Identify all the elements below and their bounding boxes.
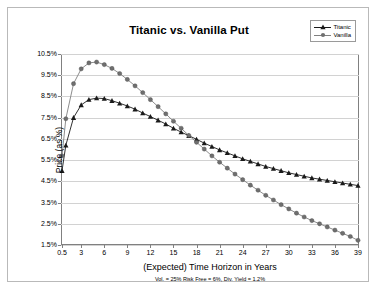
data-point-titanic <box>71 115 76 120</box>
data-point-titanic <box>217 147 222 152</box>
data-point-vanilla <box>164 112 168 116</box>
x-tick-mark <box>243 245 244 248</box>
x-tick-mark <box>312 245 313 248</box>
x-tick-mark <box>62 245 63 248</box>
data-point-vanilla <box>264 193 268 197</box>
y-tick-label: 8.5% <box>17 92 57 99</box>
x-tick-mark <box>81 245 82 248</box>
data-point-vanilla <box>141 91 145 95</box>
plot-region: 1.5%2.5%3.5%4.5%5.5%6.5%7.5%8.5%9.5%10.5… <box>61 54 359 245</box>
legend-label-vanilla: Vanilla <box>333 31 351 39</box>
series-line-vanilla <box>62 62 358 240</box>
data-point-vanilla <box>79 67 83 71</box>
x-tick-mark <box>358 245 359 248</box>
y-tick-label: 9.5% <box>17 71 57 78</box>
x-tick-mark <box>173 245 174 248</box>
x-tick-label: 36 <box>323 249 347 256</box>
data-point-vanilla <box>210 154 214 158</box>
y-tick-label: 7.5% <box>17 114 57 121</box>
data-point-vanilla <box>64 117 68 121</box>
y-tick-label: 5.5% <box>17 156 57 163</box>
y-tick-label: 6.5% <box>17 135 57 142</box>
data-point-titanic <box>202 141 207 146</box>
legend-item-titanic: Titanic <box>314 23 351 31</box>
x-tick-label: 21 <box>208 249 232 256</box>
y-tick-label: 4.5% <box>17 177 57 184</box>
data-point-vanilla <box>348 234 352 238</box>
y-tick-mark <box>58 245 61 246</box>
x-tick-label: 33 <box>300 249 324 256</box>
data-point-vanilla <box>118 71 122 75</box>
x-tick-label: 9 <box>115 249 139 256</box>
y-tick-label: 1.5% <box>17 241 57 248</box>
data-point-titanic <box>171 126 176 131</box>
x-tick-label: 12 <box>138 249 162 256</box>
data-point-vanilla <box>171 119 175 123</box>
legend-item-vanilla: Vanilla <box>314 31 351 39</box>
data-point-vanilla <box>179 126 183 130</box>
x-tick-label: 18 <box>185 249 209 256</box>
data-point-vanilla <box>310 218 314 222</box>
data-point-vanilla <box>294 211 298 215</box>
data-point-vanilla <box>218 160 222 164</box>
x-tick-mark <box>104 245 105 248</box>
data-series-layer <box>61 54 359 245</box>
y-axis-label: Price (as %) <box>54 127 64 173</box>
series-line-titanic <box>62 98 358 185</box>
data-point-vanilla <box>248 183 252 187</box>
data-point-vanilla <box>148 98 152 102</box>
data-point-vanilla <box>110 66 114 70</box>
x-tick-label: 3 <box>69 249 93 256</box>
x-tick-label: 39 <box>346 249 370 256</box>
data-point-titanic <box>232 153 237 158</box>
data-point-vanilla <box>125 77 129 81</box>
data-point-vanilla <box>287 207 291 211</box>
x-tick-label: 24 <box>231 249 255 256</box>
x-tick-mark <box>197 245 198 248</box>
x-tick-mark <box>220 245 221 248</box>
x-tick-label: 27 <box>254 249 278 256</box>
data-point-vanilla <box>202 147 206 151</box>
data-point-vanilla <box>87 61 91 65</box>
data-point-titanic <box>132 107 137 112</box>
data-point-vanilla <box>302 215 306 219</box>
data-point-vanilla <box>271 198 275 202</box>
y-tick-label: 10.5% <box>17 50 57 57</box>
data-point-vanilla <box>256 188 260 192</box>
data-point-vanilla <box>133 84 137 88</box>
data-point-titanic <box>148 114 153 119</box>
data-point-titanic <box>163 121 168 126</box>
data-point-vanilla <box>341 231 345 235</box>
data-point-vanilla <box>194 140 198 144</box>
x-tick-label: 6 <box>92 249 116 256</box>
data-point-vanilla <box>233 172 237 176</box>
data-point-vanilla <box>71 82 75 86</box>
x-axis-label: (Expected) Time Horizon in Years <box>61 262 359 272</box>
legend-marker-triangle-icon <box>314 23 331 31</box>
data-point-vanilla <box>241 178 245 182</box>
data-point-titanic <box>209 144 214 149</box>
x-tick-label: 15 <box>161 249 185 256</box>
x-tick-mark <box>150 245 151 248</box>
x-tick-mark <box>127 245 128 248</box>
data-point-vanilla <box>225 166 229 170</box>
data-point-titanic <box>63 143 68 148</box>
data-point-vanilla <box>356 238 360 242</box>
data-point-titanic <box>240 156 245 161</box>
x-tick-mark <box>266 245 267 248</box>
gridline <box>61 245 359 246</box>
data-point-vanilla <box>317 222 321 226</box>
data-point-vanilla <box>156 105 160 109</box>
data-point-titanic <box>225 150 230 155</box>
data-point-vanilla <box>325 225 329 229</box>
legend-marker-circle-icon <box>314 31 331 39</box>
data-point-vanilla <box>187 133 191 137</box>
x-tick-mark <box>289 245 290 248</box>
x-tick-mark <box>335 245 336 248</box>
data-point-titanic <box>79 102 84 107</box>
data-point-vanilla <box>333 228 337 232</box>
chart-legend: Titanic Vanilla <box>310 20 356 42</box>
chart-subtitle: Vol. = 25% Risk Free = 6%, Div. Yield = … <box>61 276 359 282</box>
legend-label-titanic: Titanic <box>333 23 350 31</box>
x-tick-label: 30 <box>277 249 301 256</box>
